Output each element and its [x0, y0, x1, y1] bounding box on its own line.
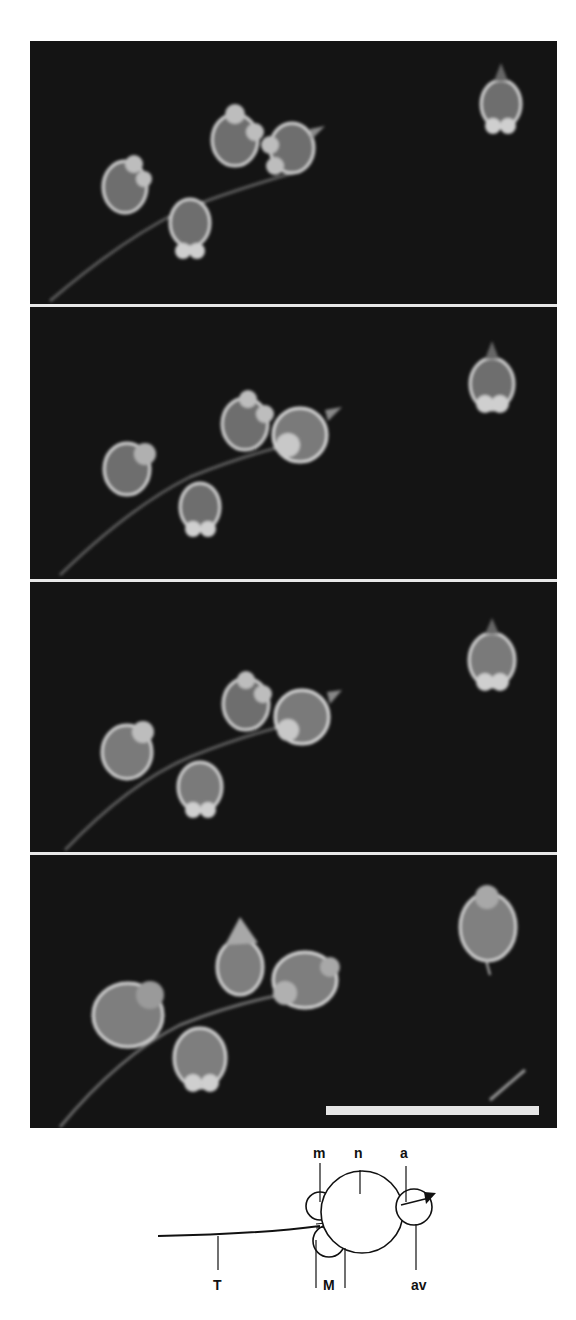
cell [102, 721, 154, 779]
cell [217, 917, 263, 995]
panel-4-cells [30, 855, 557, 1128]
tail-flagellum-T [158, 1226, 320, 1236]
cell-schematic-diagram: m n a T M av [140, 1140, 440, 1320]
micrograph-panel-1 [30, 41, 557, 304]
cell [223, 671, 272, 730]
panel-3-cells [30, 582, 557, 852]
panel-2-cells [30, 307, 557, 579]
micrograph-panel-4 [30, 855, 557, 1128]
cell [261, 123, 325, 175]
cell [273, 407, 342, 462]
cell [481, 63, 521, 134]
micrograph-panel-3 [30, 582, 557, 852]
label-m: m [313, 1145, 325, 1161]
label-n: n [354, 1145, 363, 1161]
cell [103, 155, 152, 213]
cell [460, 885, 516, 975]
cell [222, 390, 274, 450]
cell [174, 1028, 226, 1092]
label-av: av [411, 1277, 427, 1293]
label-a: a [400, 1145, 408, 1161]
cell [470, 341, 514, 413]
cell [104, 443, 156, 495]
cell [273, 952, 340, 1008]
cell [275, 690, 342, 744]
cell [178, 762, 222, 818]
label-T: T [213, 1277, 222, 1293]
cell [180, 483, 220, 537]
micrograph-figure [30, 41, 557, 1128]
cell [93, 981, 164, 1047]
nucleus-n [321, 1171, 403, 1253]
cell [469, 618, 515, 691]
cell [212, 104, 264, 166]
micrograph-panel-2 [30, 307, 557, 579]
panel-1-cells [30, 41, 557, 304]
cell [170, 199, 210, 259]
scale-bar [326, 1106, 539, 1115]
label-M: M [323, 1277, 335, 1293]
